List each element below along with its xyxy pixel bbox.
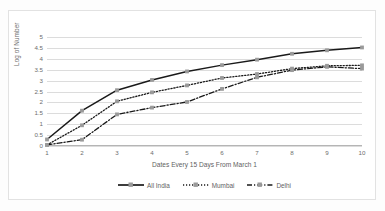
- chart-legend: All IndiaMumbaiDelhi: [47, 181, 362, 189]
- x-axis-tick-label: 9: [325, 150, 328, 156]
- legend-label: Mumbai: [212, 182, 235, 189]
- y-axis-title: Log of Number: [13, 22, 20, 66]
- data-point-marker: [185, 100, 189, 104]
- y-axis-tick-labels: 00.511.522.533.544.55: [22, 37, 43, 146]
- x-axis-tick-label: 4: [150, 150, 153, 156]
- data-point-marker: [150, 90, 154, 94]
- legend-swatch: [118, 181, 144, 189]
- data-point-marker: [220, 76, 224, 80]
- legend-label: Delhi: [276, 182, 291, 189]
- y-axis-tick-label: 5: [40, 34, 43, 40]
- x-axis-tick-label: 1: [45, 150, 48, 156]
- data-point-marker: [45, 143, 49, 147]
- data-point-marker: [80, 138, 84, 142]
- y-axis-tick-label: 4: [40, 56, 43, 62]
- series-all-india: [45, 46, 364, 142]
- series-lines: [47, 37, 362, 146]
- chart-container: Log of Number 00.511.522.533.544.55 1234…: [0, 0, 385, 211]
- series-line: [47, 47, 362, 139]
- data-point-marker: [290, 52, 294, 56]
- y-axis-tick-label: 0.5: [34, 132, 43, 138]
- series-delhi: [45, 65, 364, 147]
- x-axis-title: Dates Every 15 Days From March 1: [47, 161, 362, 168]
- data-point-marker: [255, 58, 259, 62]
- data-point-marker: [115, 99, 119, 103]
- y-axis-tick-label: 3: [40, 78, 43, 84]
- legend-item-delhi[interactable]: Delhi: [247, 181, 291, 189]
- data-point-marker: [255, 72, 259, 76]
- legend-swatch: [247, 181, 273, 189]
- x-axis-tick-label: 8: [290, 150, 293, 156]
- legend-item-mumbai[interactable]: Mumbai: [183, 181, 235, 189]
- data-point-marker: [185, 84, 189, 88]
- x-axis-tick-label: 7: [255, 150, 258, 156]
- x-axis-tick-label: 6: [220, 150, 223, 156]
- y-axis-tick-label: 2.5: [34, 89, 43, 95]
- data-point-marker: [220, 87, 224, 91]
- y-axis-tick-label: 3.5: [34, 67, 43, 73]
- data-point-marker: [150, 78, 154, 82]
- data-point-marker: [360, 46, 364, 50]
- data-point-marker: [115, 88, 119, 92]
- gridline: [47, 146, 362, 147]
- data-point-marker: [220, 63, 224, 67]
- plot-area: [47, 37, 362, 146]
- data-point-marker: [360, 63, 364, 67]
- data-point-marker: [80, 123, 84, 127]
- data-point-marker: [325, 65, 329, 69]
- data-point-marker: [150, 106, 154, 110]
- x-axis-tick-label: 10: [359, 150, 366, 156]
- x-axis-tick-label: 3: [115, 150, 118, 156]
- y-axis-tick-label: 1.5: [34, 110, 43, 116]
- x-axis-tick-label: 5: [185, 150, 188, 156]
- legend-swatch: [183, 181, 209, 189]
- x-axis-tick-labels: 12345678910: [47, 150, 362, 160]
- x-axis-tick-label: 2: [80, 150, 83, 156]
- data-point-marker: [185, 70, 189, 74]
- series-line: [47, 67, 362, 145]
- data-point-marker: [325, 48, 329, 52]
- data-point-marker: [80, 109, 84, 113]
- legend-label: All India: [147, 182, 170, 189]
- y-axis-tick-label: 0: [40, 143, 43, 149]
- data-point-marker: [45, 138, 49, 142]
- data-point-marker: [115, 112, 119, 116]
- data-point-marker: [290, 68, 294, 72]
- y-axis-tick-label: 2: [40, 99, 43, 105]
- legend-item-all-india[interactable]: All India: [118, 181, 170, 189]
- data-point-marker: [255, 75, 259, 79]
- y-axis-tick-label: 1: [40, 121, 43, 127]
- y-axis-tick-label: 4.5: [34, 45, 43, 51]
- data-point-marker: [360, 67, 364, 71]
- series-line: [47, 65, 362, 145]
